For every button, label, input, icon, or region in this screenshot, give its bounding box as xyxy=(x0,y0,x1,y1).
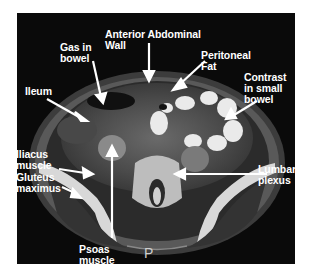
label-contrast-in-small-bowel: Contrast in small bowel xyxy=(244,72,286,105)
label-ileum: Ileum xyxy=(25,86,52,97)
label-lumbar-plexus: Lumbar plexus xyxy=(258,164,295,186)
label-peritoneal-fat: Peritoneal Fat xyxy=(201,50,251,72)
label-anterior-abdominal-wall: Anterior Abdominal Wall xyxy=(105,29,201,51)
ct-scan-figure: Anterior Abdominal Wall Gas in bowel Per… xyxy=(17,13,295,264)
label-psoas-muscle: Psoas muscle xyxy=(79,244,115,264)
orientation-marker-posterior: P xyxy=(144,245,153,261)
label-gas-in-bowel: Gas in bowel xyxy=(60,42,92,64)
label-gluteus-maximus: Gluteus maximus xyxy=(17,172,61,194)
label-iliacus-muscle: Iliacus muscle xyxy=(17,149,52,171)
